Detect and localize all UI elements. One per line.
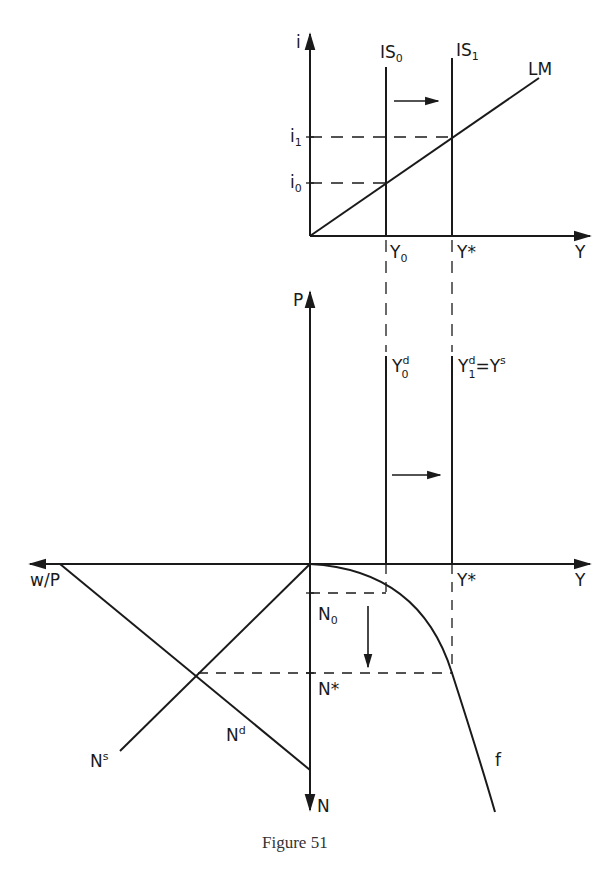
i0-label: i0 [290, 172, 302, 195]
nd-label: Nd [226, 724, 246, 745]
f-label: f [495, 750, 502, 770]
figure-caption: Figure 51 [262, 833, 328, 852]
figure-canvas: i IS0 IS1 LM i1 i0 Y0 Y* Y P Yd0 Yd1=Ys … [0, 0, 615, 876]
n0-label: N0 [318, 604, 338, 627]
n-axis-label: N [317, 796, 330, 816]
wp-axis-label: w/P [30, 570, 60, 590]
y0-label: Y0 [389, 242, 407, 265]
ystar-main-label: Y* [456, 570, 476, 590]
y1d-ys-label: Yd1=Ys [457, 354, 506, 381]
is1-label: IS1 [456, 40, 479, 63]
y-axis-top-label: Y [574, 242, 586, 262]
adas-labels: P Yd0 Yd1=Ys w/P Y* Y [30, 290, 586, 590]
p-axis-label: P [293, 290, 303, 310]
ystar-top-label: Y* [456, 242, 476, 262]
lm-label: LM [528, 59, 552, 79]
labour-labels: N0 N* Ns Nd f N [90, 604, 502, 816]
i1-label: i1 [290, 126, 302, 149]
nstar-label: N* [318, 679, 339, 699]
adas-panel [30, 292, 590, 564]
ns-label: Ns [90, 750, 109, 771]
labour-panel [60, 564, 495, 812]
i-axis-label: i [296, 32, 301, 52]
y0d-label: Yd0 [391, 354, 409, 381]
y-axis-main-label: Y [574, 570, 586, 590]
nd-curve [60, 564, 310, 770]
ns-curve [120, 564, 310, 751]
is0-label: IS0 [380, 42, 403, 65]
